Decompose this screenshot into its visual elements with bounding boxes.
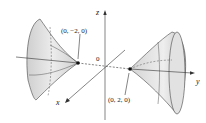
point-neg2-label: (0, −2, 0) <box>61 27 88 35</box>
hyperboloid-figure: z y x 0 (0, −2, 0) (0, 2, 0) <box>0 0 206 123</box>
origin-label: 0 <box>96 55 100 63</box>
x-axis-label: x <box>55 98 60 107</box>
right-sheet <box>130 32 186 114</box>
figure-svg: z y x 0 (0, −2, 0) (0, 2, 0) <box>0 0 206 123</box>
point-pos2 <box>128 67 132 71</box>
point-pos2-label: (0, 2, 0) <box>108 96 131 104</box>
z-axis-label: z <box>95 8 100 17</box>
y-axis-label: y <box>195 77 200 86</box>
point-neg2 <box>76 61 80 65</box>
